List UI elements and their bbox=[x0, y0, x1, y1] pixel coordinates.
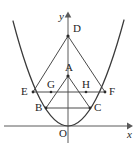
point-label-D: D bbox=[73, 23, 81, 34]
y-axis-label: y bbox=[59, 11, 64, 22]
point-label-E: E bbox=[21, 86, 28, 97]
vertex-dot-G bbox=[50, 91, 53, 94]
point-label-F: F bbox=[109, 86, 115, 97]
geometry-figure: D A E F G H B C y x O bbox=[0, 0, 138, 153]
figure-canvas bbox=[0, 0, 138, 153]
vertex-dot-H bbox=[85, 91, 88, 94]
vertex-dot-F bbox=[104, 91, 107, 94]
vertex-dot-C bbox=[89, 107, 92, 110]
point-label-A: A bbox=[65, 62, 73, 73]
y-axis-arrow-icon bbox=[65, 12, 72, 18]
origin-label: O bbox=[59, 128, 67, 139]
point-label-B: B bbox=[35, 102, 42, 113]
point-label-G: G bbox=[47, 79, 55, 90]
vertex-dot-E bbox=[32, 91, 35, 94]
vertex-dot-A bbox=[66, 74, 69, 77]
point-label-C: C bbox=[94, 102, 101, 113]
vertex-dot-D bbox=[66, 34, 69, 37]
x-axis-label: x bbox=[127, 129, 132, 140]
point-label-H: H bbox=[82, 79, 90, 90]
vertex-dot-B bbox=[45, 107, 48, 110]
